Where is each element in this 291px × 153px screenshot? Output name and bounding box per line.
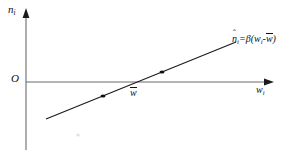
hat-accent-icon: ˆ xyxy=(9,0,12,8)
origin-label: O xyxy=(11,73,19,84)
y-axis-label: ˆni xyxy=(8,4,16,17)
equation-term2-var: w xyxy=(266,33,273,44)
x-axis-label: wi xyxy=(256,85,265,97)
equation-equals: = xyxy=(239,33,246,44)
x-axis xyxy=(26,79,274,86)
regression-line-figure: ˆni O wi w ˆni=β(wi-w) xyxy=(0,0,291,153)
equation-overbar-accent-icon xyxy=(266,33,273,34)
y-axis xyxy=(23,8,30,150)
y-axis-arrowhead-icon xyxy=(23,8,30,18)
fitted-regression-line xyxy=(46,42,236,119)
wbar-var: w xyxy=(130,87,137,98)
x-axis-label-subscript: i xyxy=(263,89,265,96)
regression-equation-annotation: ˆni=β(wi-w) xyxy=(232,34,276,46)
data-point-lower-marker xyxy=(101,94,106,97)
x-axis-label-var: w xyxy=(256,84,263,95)
equation-term1-var: w xyxy=(254,33,261,44)
overbar-accent-icon xyxy=(130,87,137,88)
scan-artifact-speck xyxy=(76,133,79,136)
x-axis-arrowhead-icon xyxy=(264,79,274,86)
regression-line-segment xyxy=(46,42,236,119)
equation-close-paren: ) xyxy=(273,33,276,44)
x-intercept-tick-label: w xyxy=(130,88,137,98)
data-point-upper-marker xyxy=(160,70,165,73)
plot-canvas xyxy=(0,0,291,153)
equation-hat-accent-icon: ˆ xyxy=(233,29,236,38)
